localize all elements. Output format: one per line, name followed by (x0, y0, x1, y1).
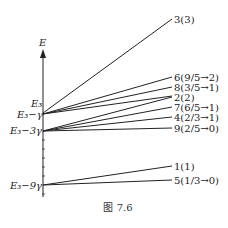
state-label-1: 1(1) (174, 161, 195, 172)
state-label-9: 9(2/5→0) (174, 123, 219, 134)
figure-caption: 图 7.6 (103, 202, 132, 213)
axis-label: E (38, 37, 47, 48)
state-label-3: 3(3) (174, 14, 195, 25)
splitting-lines (43, 19, 172, 185)
energy-level-diagram: E E₃ E₃−γ E₃−3γ E₃−9γ 3(3) 6(9/5→2) 8(3/… (0, 0, 228, 228)
level-label-e3-minus-gamma: E₃−γ (16, 109, 43, 120)
line-8 (43, 87, 172, 114)
level-label-e3: E₃ (30, 98, 42, 109)
state-label-4: 4(2/3→1) (174, 112, 219, 123)
level-label-e3-minus-3gamma: E₃−3γ (9, 125, 42, 136)
axis-arrow-icon (40, 49, 46, 58)
level-label-e3-minus-9gamma: E₃−9γ (9, 180, 42, 191)
line-6 (43, 77, 172, 114)
line-2b (43, 97, 172, 131)
state-label-5: 5(1/3→0) (174, 175, 219, 186)
